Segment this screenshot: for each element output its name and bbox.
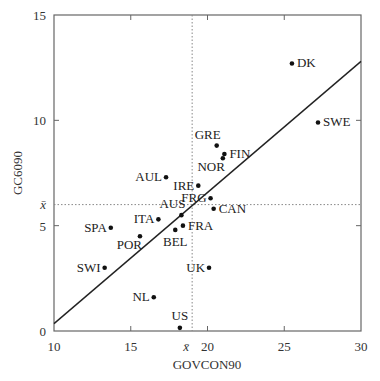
point-marker [179, 213, 184, 218]
point-marker [178, 326, 183, 331]
data-point: BEL [163, 228, 188, 249]
point-label: SWE [323, 114, 351, 129]
point-marker [156, 217, 161, 222]
point-marker [164, 175, 169, 180]
fit-line [54, 61, 361, 323]
point-marker [151, 295, 156, 300]
data-point: GRE [195, 127, 221, 148]
data-point: DK [290, 55, 317, 70]
data-points: DKSWEGREFINNORAULIREFRGCANAUSITAFRABELSP… [77, 55, 351, 330]
point-marker [102, 266, 107, 271]
axis-ticks: 1015202530051015 [33, 8, 368, 354]
point-label: BEL [163, 234, 188, 249]
data-point: FRA [181, 218, 214, 233]
y-tick-label: 5 [40, 219, 47, 234]
y-mean-label: x̄ [39, 197, 46, 212]
data-point: UK [186, 260, 211, 275]
point-label: AUL [135, 169, 162, 184]
x-tick-label: 10 [48, 339, 61, 354]
data-point: ITA [134, 211, 161, 226]
data-point: NOR [197, 156, 225, 174]
y-tick-label: 15 [33, 8, 46, 23]
point-label: FRA [188, 218, 214, 233]
data-point: NL [132, 289, 156, 304]
point-label: NL [132, 289, 149, 304]
point-label: GRE [195, 127, 221, 142]
point-label: FIN [229, 146, 251, 161]
x-axis-label: GOVCON90 [173, 357, 242, 372]
point-label: SPA [84, 220, 107, 235]
point-marker [316, 120, 321, 125]
x-tick-label: 15 [124, 339, 137, 354]
data-point: SPA [84, 220, 113, 235]
point-label: AUS [159, 196, 185, 211]
point-marker [207, 266, 212, 271]
point-marker [173, 228, 178, 233]
point-marker [211, 207, 216, 212]
point-marker [208, 196, 213, 201]
data-point: FIN [222, 146, 251, 161]
regression-line [54, 61, 361, 323]
data-point: SWI [77, 260, 107, 275]
point-label: CAN [219, 201, 247, 216]
y-tick-label: 0 [40, 324, 47, 339]
point-marker [214, 143, 219, 148]
data-point: CAN [211, 201, 246, 216]
point-label: ITA [134, 211, 155, 226]
point-marker [108, 225, 113, 230]
x-tick-label: 20 [201, 339, 214, 354]
point-label: SWI [77, 260, 101, 275]
data-point: US [172, 308, 189, 330]
x-tick-label: 30 [355, 339, 368, 354]
data-point: AUL [135, 169, 168, 184]
point-label: US [172, 308, 189, 323]
x-tick-label: 25 [278, 339, 291, 354]
point-label: UK [186, 260, 205, 275]
data-point: AUS [159, 196, 185, 217]
point-marker [196, 183, 201, 188]
point-marker [181, 223, 186, 228]
point-marker [290, 61, 295, 66]
point-label: POR [117, 237, 143, 252]
point-marker [222, 152, 227, 157]
scatter-chart: x̄x̄ DKSWEGREFINNORAULIREFRGCANAUSITAFRA… [0, 0, 380, 381]
point-label: DK [297, 55, 316, 70]
x-mean-label: x̄ [182, 339, 189, 354]
data-point: SWE [316, 114, 351, 129]
point-label: NOR [197, 159, 225, 174]
y-tick-label: 10 [33, 113, 46, 128]
data-point: POR [117, 234, 143, 252]
y-axis-label: GC6090 [10, 151, 25, 195]
